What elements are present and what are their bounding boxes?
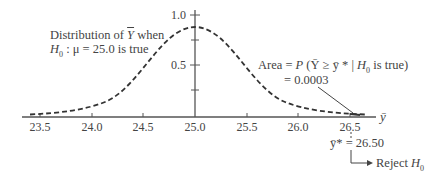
distribution-label: Distribution of Y when H0 : μ = 25.0 is … xyxy=(50,28,164,62)
svg-text:26.5: 26.5 xyxy=(340,120,361,134)
y-tick-labels: 0.5 1.0 xyxy=(171,8,186,72)
svg-text:24.5: 24.5 xyxy=(133,120,154,134)
reject-label: Reject H0 xyxy=(376,156,424,176)
x-tick-labels: 23.5 24.0 24.5 25.0 25.5 26.0 26.5 xyxy=(30,120,361,134)
critical-value-label: ȳ* = 26.50 xyxy=(330,136,384,150)
reject-arrow xyxy=(351,150,367,163)
svg-text:26.0: 26.0 xyxy=(288,120,309,134)
svg-text:25.5: 25.5 xyxy=(237,120,258,134)
x-axis-label: ȳ xyxy=(378,109,386,124)
svg-text:1.0: 1.0 xyxy=(171,8,186,22)
svg-text:25.0: 25.0 xyxy=(185,120,206,134)
svg-text:0.5: 0.5 xyxy=(171,58,186,72)
area-label: Area = P (Ȳ ≥ ȳ * | H0 is true) xyxy=(258,58,408,78)
area-value: = 0.0003 xyxy=(284,73,329,87)
area-leader-line xyxy=(318,87,353,113)
svg-text:23.5: 23.5 xyxy=(30,120,51,134)
svg-text:24.0: 24.0 xyxy=(82,120,103,134)
